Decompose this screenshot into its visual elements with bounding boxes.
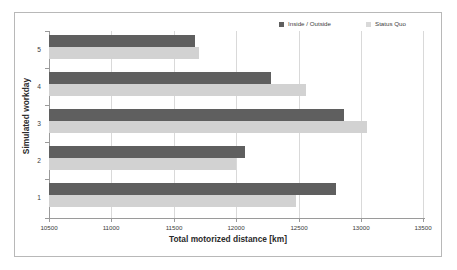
bar-status-quo-day-3 bbox=[49, 121, 367, 133]
y-tick-4-3 bbox=[45, 105, 49, 106]
bar-status-quo-day-5 bbox=[49, 47, 199, 59]
bar-inside-outside-day-2 bbox=[49, 146, 245, 158]
x-tick-10500 bbox=[49, 218, 50, 222]
x-tick-11000 bbox=[111, 218, 112, 222]
x-tick-label-12500: 12500 bbox=[290, 224, 307, 231]
y-axis-title: Simulated workday bbox=[21, 51, 31, 181]
x-axis-line bbox=[49, 218, 425, 219]
x-tick-12500 bbox=[299, 218, 300, 222]
y-tick-bottom bbox=[45, 218, 49, 219]
x-tick-13500 bbox=[423, 218, 424, 222]
y-tick-3-2 bbox=[45, 142, 49, 143]
x-tick-label-13000: 13000 bbox=[352, 224, 369, 231]
x-tick-label-12000: 12000 bbox=[227, 224, 244, 231]
legend-entry-inside-outside: Inside / Outside bbox=[279, 20, 331, 28]
chart-figure: Inside / Outside Status Quo bbox=[14, 12, 442, 257]
y-tick-label-4: 4 bbox=[31, 83, 41, 90]
y-tick-label-3: 3 bbox=[31, 120, 41, 127]
legend-label-inside-outside: Inside / Outside bbox=[288, 20, 331, 28]
x-tick-label-11500: 11500 bbox=[166, 224, 183, 231]
bar-inside-outside-day-3 bbox=[49, 109, 344, 121]
y-tick-5-4 bbox=[45, 68, 49, 69]
y-tick-2-1 bbox=[45, 179, 49, 180]
plot-area bbox=[49, 31, 424, 218]
x-axis-title: Total motorized distance [km] bbox=[15, 234, 441, 244]
legend-label-status-quo: Status Quo bbox=[375, 20, 406, 28]
gridline-13500 bbox=[423, 31, 424, 218]
y-tick-top bbox=[45, 31, 49, 32]
bar-status-quo-day-1 bbox=[49, 195, 296, 207]
bar-status-quo-day-2 bbox=[49, 158, 236, 170]
y-tick-label-5: 5 bbox=[31, 46, 41, 53]
legend-entry-status-quo: Status Quo bbox=[366, 20, 406, 28]
x-tick-label-10500: 10500 bbox=[40, 224, 57, 231]
bar-inside-outside-day-1 bbox=[49, 183, 336, 195]
x-tick-12000 bbox=[236, 218, 237, 222]
x-tick-label-13500: 13500 bbox=[414, 224, 431, 231]
y-tick-label-2: 2 bbox=[31, 157, 41, 164]
legend-swatch-status-quo bbox=[366, 22, 371, 27]
y-tick-label-1: 1 bbox=[31, 194, 41, 201]
bar-inside-outside-day-4 bbox=[49, 72, 271, 84]
legend-swatch-inside-outside bbox=[279, 22, 284, 27]
x-tick-label-11000: 11000 bbox=[103, 224, 120, 231]
x-tick-13000 bbox=[361, 218, 362, 222]
x-tick-11500 bbox=[174, 218, 175, 222]
bar-inside-outside-day-5 bbox=[49, 35, 195, 47]
bar-status-quo-day-4 bbox=[49, 84, 306, 96]
